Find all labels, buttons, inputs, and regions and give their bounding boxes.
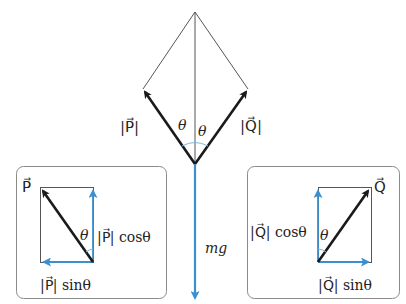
parallelogram-edge-left <box>143 12 195 89</box>
label-P-magnitude: |P⃗| <box>120 117 139 136</box>
right-horizontal-component-label: |Q⃗| sinθ <box>318 276 372 294</box>
left-panel: P⃗ θ |P⃗| cosθ |P⃗| sinθ <box>17 167 167 299</box>
left-vertical-component-label: |P⃗| cosθ <box>97 228 151 246</box>
right-vertical-component-label: |Q⃗| cosθ <box>250 223 307 241</box>
vector-P-arrow <box>145 92 195 164</box>
right-panel: Q⃗ θ |Q⃗| cosθ |Q⃗| sinθ <box>248 167 400 299</box>
parallelogram-edge-right <box>195 12 248 89</box>
parallelogram <box>143 12 248 164</box>
left-vector-label: P⃗ <box>22 177 31 196</box>
left-theta-label: θ <box>80 227 89 243</box>
force-diagram: |P⃗| |Q⃗| θ θ mg P⃗ θ |P⃗| cosθ |P⃗| sin… <box>0 0 406 304</box>
diagram-svg: |P⃗| |Q⃗| θ θ mg P⃗ θ |P⃗| cosθ |P⃗| sin… <box>0 0 406 304</box>
theta-left-label: θ <box>178 117 187 133</box>
left-horizontal-component-label: |P⃗| sinθ <box>40 276 91 294</box>
label-Q-magnitude: |Q⃗| <box>240 116 262 135</box>
weight-label: mg <box>205 240 227 256</box>
left-angle-arc <box>86 249 93 252</box>
right-theta-label: θ <box>320 227 329 243</box>
theta-right-label: θ <box>198 123 207 139</box>
right-vector-label: Q⃗ <box>374 177 386 196</box>
